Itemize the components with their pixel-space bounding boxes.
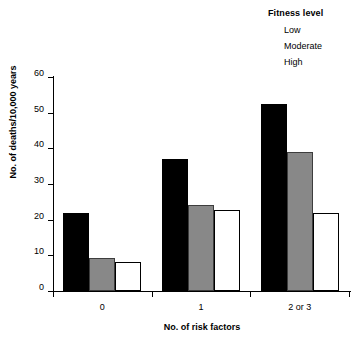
plot-area — [53, 77, 349, 291]
y-axis-tick-label: 60 — [0, 69, 44, 78]
y-axis-tick-label: 20 — [0, 212, 44, 221]
legend-item-moderate: Moderate — [268, 39, 362, 53]
y-axis-tick-label: 30 — [0, 176, 44, 185]
x-axis-tick — [349, 292, 350, 297]
legend-item-label: High — [284, 58, 303, 67]
legend: Fitness level Low Moderate High — [268, 8, 362, 71]
black-swatch — [268, 26, 276, 34]
x-axis-tick-label: 0 — [100, 302, 105, 312]
white-swatch — [268, 58, 276, 66]
x-axis-line — [53, 291, 351, 292]
legend-item-label: Moderate — [284, 42, 322, 51]
y-axis-tick-label: 40 — [0, 140, 44, 149]
x-axis-tick — [152, 292, 153, 297]
legend-item-low: Low — [268, 23, 362, 37]
y-axis-tick-label: 50 — [0, 105, 44, 114]
x-axis-tick-label: 1 — [198, 302, 203, 312]
bar-group — [53, 77, 349, 291]
x-axis-title: No. of risk factors — [53, 322, 351, 332]
bar-moderate-2 — [287, 152, 313, 291]
x-axis-tick — [53, 292, 54, 297]
x-axis-tick — [250, 292, 251, 297]
legend-title: Fitness level — [268, 8, 362, 18]
x-axis-tick-label: 2 or 3 — [288, 302, 311, 312]
y-axis-tick-label: 10 — [0, 247, 44, 256]
bar-high-2 — [313, 213, 339, 291]
legend-item-label: Low — [284, 26, 301, 35]
bar-chart-figure: Fitness level Low Moderate High No. of d… — [0, 0, 364, 342]
legend-item-high: High — [268, 55, 362, 69]
bar-low-2 — [261, 104, 287, 291]
gray-swatch — [268, 42, 276, 50]
y-axis-tick-label: 0 — [0, 283, 44, 292]
